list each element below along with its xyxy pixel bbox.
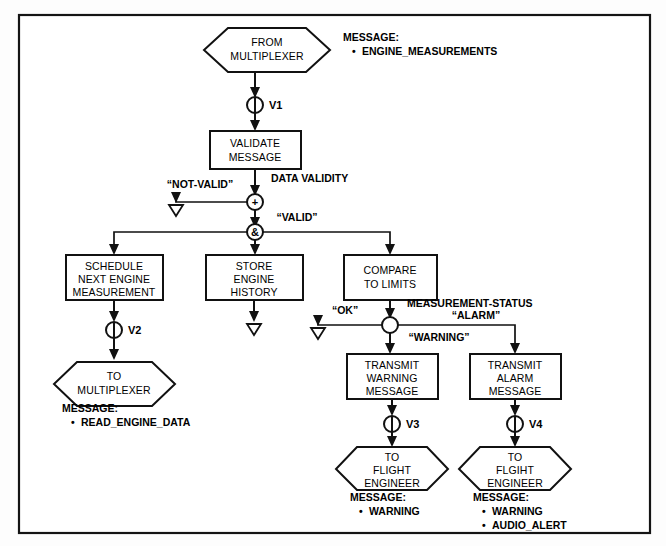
flow-label-alarm: “ALARM” bbox=[452, 309, 500, 321]
node-to-flight-engineer-warning[interactable]: TO FLIGHT ENGINEER bbox=[336, 447, 448, 490]
node-transmit-alarm-message[interactable]: TRANSMIT ALARM MESSAGE bbox=[470, 354, 561, 399]
message-heading: MESSAGE: bbox=[350, 491, 406, 503]
message-item: WARNING bbox=[369, 505, 420, 517]
node-label-line-1: VALIDATE bbox=[230, 137, 280, 149]
flow-label-data-validity: DATA VALIDITY bbox=[271, 172, 348, 184]
valve-label: V4 bbox=[529, 418, 543, 430]
junction-measurement-status[interactable] bbox=[382, 317, 398, 333]
node-label-line-3: ENGINEER bbox=[487, 477, 543, 489]
node-label-line-1: TO bbox=[107, 370, 122, 382]
junction-circle-icon bbox=[382, 317, 398, 333]
node-label-line-3: ENGINEER bbox=[364, 477, 420, 489]
message-bullet: • bbox=[71, 416, 75, 428]
node-label-line-1: COMPARE bbox=[363, 264, 416, 276]
node-label-line-3: MESSAGE bbox=[366, 385, 419, 397]
node-label-line-2: FLGIHT bbox=[496, 464, 534, 476]
message-heading: MESSAGE: bbox=[343, 31, 399, 43]
node-compare-to-limits[interactable]: COMPARE TO LIMITS bbox=[344, 255, 437, 300]
node-validate-message[interactable]: VALIDATE MESSAGE bbox=[210, 131, 301, 169]
node-store-engine-history[interactable]: STORE ENGINE HISTORY bbox=[206, 255, 303, 300]
node-label-line-2: ALARM bbox=[497, 372, 534, 384]
flow-label-warning: “WARNING” bbox=[408, 331, 469, 343]
flow-label-ok: “OK” bbox=[332, 304, 358, 316]
message-item: WARNING bbox=[492, 505, 543, 517]
message-heading: MESSAGE: bbox=[473, 491, 529, 503]
junction-plus[interactable]: + bbox=[247, 194, 263, 210]
node-label-line-1: TO bbox=[385, 451, 400, 463]
flow-label-not-valid: “NOT-VALID” bbox=[167, 178, 233, 190]
message-heading: MESSAGE: bbox=[62, 402, 118, 414]
message-item: READ_ENGINE_DATA bbox=[81, 416, 191, 428]
valve-label: V2 bbox=[128, 324, 141, 336]
flowchart-canvas: FROM MULTIPLEXER VALIDATE MESSAGE SCHEDU… bbox=[0, 0, 666, 546]
node-label-line-3: HISTORY bbox=[231, 286, 278, 298]
valve-label: V3 bbox=[406, 418, 419, 430]
junction-symbol: & bbox=[251, 226, 259, 238]
message-bullet: • bbox=[482, 519, 486, 531]
node-label-line-2: NEXT ENGINE bbox=[78, 273, 150, 285]
junction-symbol: + bbox=[252, 196, 258, 208]
flowchart-diagram: FROM MULTIPLEXER VALIDATE MESSAGE SCHEDU… bbox=[0, 0, 666, 546]
node-transmit-warning-message[interactable]: TRANSMIT WARNING MESSAGE bbox=[347, 354, 438, 399]
node-label-line-2: FLIGHT bbox=[373, 464, 411, 476]
node-schedule-next-engine-measurement[interactable]: SCHEDULE NEXT ENGINE MEASUREMENT bbox=[66, 255, 163, 300]
node-label-line-2: WARNING bbox=[366, 372, 417, 384]
node-to-multiplexer[interactable]: TO MULTIPLEXER bbox=[54, 362, 175, 406]
junction-and[interactable]: & bbox=[247, 224, 263, 240]
message-item: ENGINE_MEASUREMENTS bbox=[362, 45, 497, 57]
node-label-line-2: TO LIMITS bbox=[364, 278, 416, 290]
node-from-multiplexer[interactable]: FROM MULTIPLEXER bbox=[204, 28, 330, 72]
flow-label-measurement-status: MEASUREMENT-STATUS bbox=[407, 297, 533, 309]
message-bullet: • bbox=[359, 505, 363, 517]
node-label-line-1: STORE bbox=[236, 260, 272, 272]
node-label-line-1: TO bbox=[508, 451, 523, 463]
node-label-line-3: MEASUREMENT bbox=[73, 286, 156, 298]
node-label-line-1: FROM bbox=[251, 36, 282, 48]
node-label-line-1: SCHEDULE bbox=[85, 260, 143, 272]
node-label-line-2: ENGINE bbox=[234, 273, 275, 285]
node-label-line-3: MESSAGE bbox=[489, 385, 542, 397]
node-label-line-1: TRANSMIT bbox=[488, 359, 543, 371]
node-to-flight-engineer-alarm[interactable]: TO FLGIHT ENGINEER bbox=[459, 447, 571, 490]
node-label-line-2: MULTIPLEXER bbox=[230, 50, 304, 62]
node-label-line-1: TRANSMIT bbox=[365, 359, 420, 371]
message-bullet: • bbox=[352, 45, 356, 57]
node-label-line-2: MESSAGE bbox=[229, 151, 282, 163]
message-item: AUDIO_ALERT bbox=[492, 519, 567, 531]
flow-label-valid: “VALID” bbox=[276, 211, 317, 223]
valve-label: V1 bbox=[269, 99, 282, 111]
message-bullet: • bbox=[482, 505, 486, 517]
node-label-line-2: MULTIPLEXER bbox=[77, 384, 151, 396]
